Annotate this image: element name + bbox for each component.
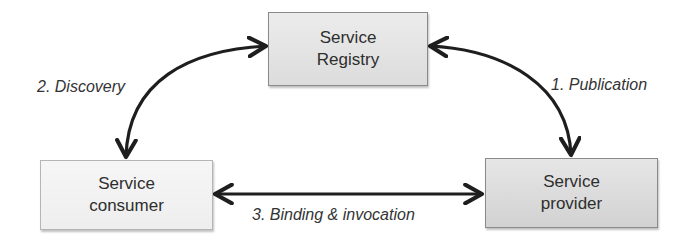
service-registry-node: Service Registry	[268, 12, 428, 86]
binding-invocation-label: 3. Binding & invocation	[252, 206, 415, 224]
discovery-label: 2. Discovery	[37, 78, 125, 96]
consumer-label-line2: consumer	[89, 195, 164, 217]
discovery-arrow	[126, 46, 266, 157]
publication-arrow	[430, 46, 571, 155]
provider-label-line2: provider	[541, 193, 602, 215]
registry-label-line2: Registry	[317, 49, 379, 71]
publication-label: 1. Publication	[551, 76, 647, 94]
service-provider-node: Service provider	[485, 158, 658, 228]
consumer-label-line1: Service	[98, 173, 155, 195]
provider-label-line1: Service	[543, 171, 600, 193]
registry-label-line1: Service	[320, 27, 377, 49]
service-consumer-node: Service consumer	[40, 160, 213, 230]
